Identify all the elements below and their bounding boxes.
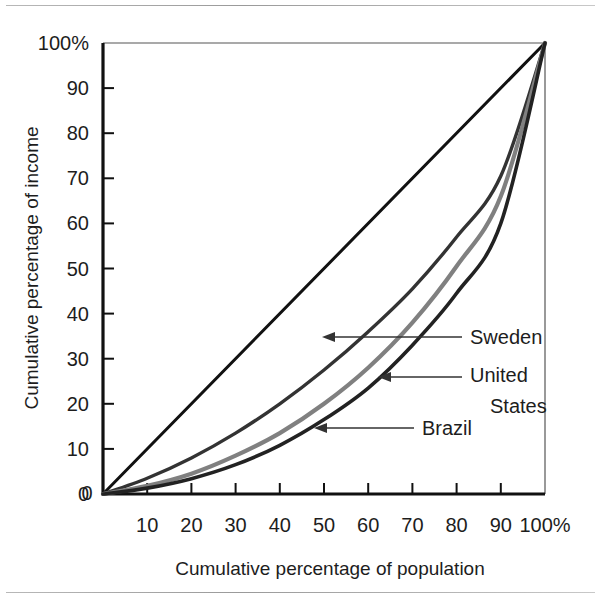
- y-tick-label-30: 30: [67, 348, 89, 370]
- annotation-brazil: Brazil: [314, 417, 472, 439]
- x-tick-label-20: 20: [180, 514, 202, 536]
- x-tick-label-40: 40: [269, 514, 291, 536]
- y-axis-ticks: [103, 88, 114, 449]
- y-tick-label-90: 90: [67, 77, 89, 99]
- y-tick-label-100: 100%: [38, 32, 89, 54]
- x-tick-label-90: 90: [490, 514, 512, 536]
- y-tick-label-20: 20: [67, 393, 89, 415]
- x-axis-ticks: [147, 483, 501, 494]
- y-tick-label-10: 10: [67, 438, 89, 460]
- top-divider-rule: [6, 5, 595, 6]
- x-tick-label-70: 70: [401, 514, 423, 536]
- lorenz-curve-figure: 0102030405060708090100% 0102030405060708…: [0, 0, 601, 604]
- y-tick-label-70: 70: [67, 167, 89, 189]
- chart-canvas: 0102030405060708090100% 0102030405060708…: [0, 0, 601, 604]
- x-tick-label-100: 100%: [519, 514, 570, 536]
- y-tick-label-40: 40: [67, 303, 89, 325]
- bottom-divider-rule: [6, 592, 595, 593]
- annotation-united-states: UnitedStates: [378, 364, 547, 417]
- y-tick-label-80: 80: [67, 122, 89, 144]
- x-tick-label-80: 80: [445, 514, 467, 536]
- y-tick-label-50: 50: [67, 258, 89, 280]
- x-tick-label-0: 0: [81, 482, 92, 504]
- y-axis-tick-labels: 0102030405060708090100%: [38, 32, 89, 505]
- series-label-text: Brazil: [422, 417, 472, 439]
- series-label-text: States: [490, 395, 547, 417]
- x-axis-tick-labels: 0102030405060708090100%: [81, 482, 570, 536]
- x-tick-label-60: 60: [357, 514, 379, 536]
- x-axis-title: Cumulative percentage of population: [175, 558, 484, 579]
- series-label-text: Sweden: [470, 326, 542, 348]
- y-tick-label-60: 60: [67, 212, 89, 234]
- x-tick-label-50: 50: [313, 514, 335, 536]
- series-label-text: United: [470, 364, 528, 386]
- x-tick-label-30: 30: [224, 514, 246, 536]
- y-axis-title: Cumulative percentage of income: [21, 126, 42, 409]
- x-tick-label-10: 10: [136, 514, 158, 536]
- arrow-head: [322, 332, 335, 342]
